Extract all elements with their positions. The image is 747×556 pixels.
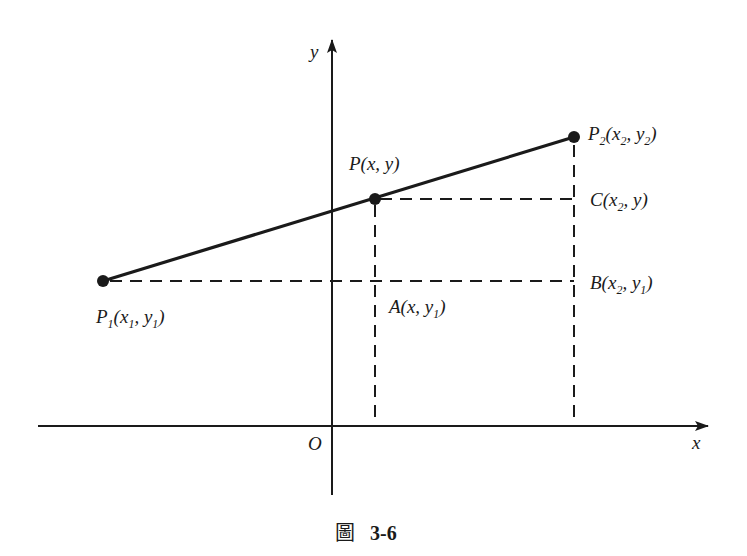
coordinate-diagram: y x O P2(x2, y2) P(x, y) C(x2, y) B(x2, … bbox=[0, 0, 747, 556]
label-p: P(x, y) bbox=[348, 153, 400, 175]
x-axis-label: x bbox=[691, 432, 701, 453]
origin-label: O bbox=[308, 433, 322, 454]
point-p bbox=[369, 193, 381, 205]
label-b: B(x2, y1) bbox=[590, 272, 653, 297]
figure-caption-prefix: 圖 bbox=[335, 522, 355, 544]
point-p1 bbox=[97, 275, 109, 287]
y-axis-label: y bbox=[308, 41, 319, 62]
label-p1: P1(x1, y1) bbox=[95, 306, 165, 331]
label-a: A(x, y1) bbox=[387, 296, 446, 321]
label-c: C(x2, y) bbox=[590, 189, 648, 214]
label-p2: P2(x2, y2) bbox=[587, 123, 657, 148]
figure-caption-number: 3-6 bbox=[370, 522, 397, 544]
segment-p1-p2 bbox=[103, 137, 574, 281]
point-p2 bbox=[568, 131, 580, 143]
